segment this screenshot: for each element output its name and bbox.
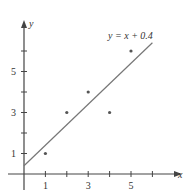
y-axis-label: y	[28, 18, 34, 29]
data-point	[44, 152, 47, 155]
y-axis-arrow-icon	[21, 20, 27, 28]
data-point	[87, 90, 90, 93]
y-tick-label: 5	[11, 66, 16, 77]
y-tick-label: 1	[11, 148, 16, 159]
fit-equation-label: y = x + 0.4	[107, 30, 153, 41]
fit-line	[24, 43, 152, 166]
x-tick-label: 3	[86, 180, 91, 191]
y-tick-label: 3	[11, 107, 16, 118]
data-point	[108, 111, 111, 114]
x-tick-label: 5	[129, 180, 134, 191]
x-axis-label: x	[177, 169, 183, 180]
scatter-chart: 1 3 5 1 3 5 x y y = x + 0.4	[0, 0, 185, 195]
x-tick-label: 1	[43, 180, 48, 191]
data-point	[129, 49, 132, 52]
data-points	[44, 49, 133, 155]
data-point	[65, 111, 68, 114]
